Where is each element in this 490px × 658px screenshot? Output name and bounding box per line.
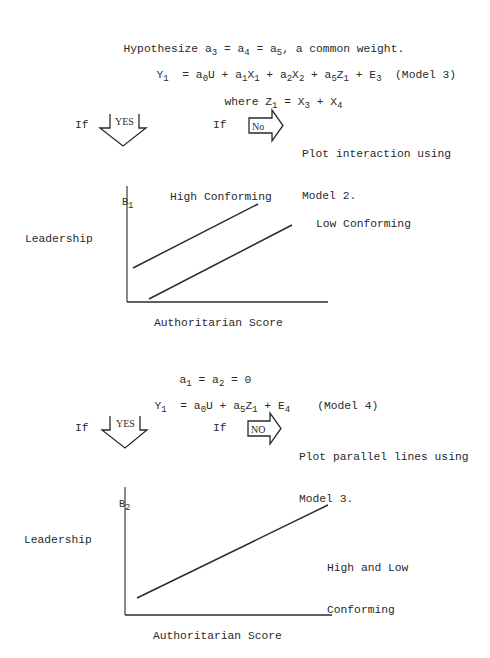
chart-1-x-label: Authoritarian Score (154, 316, 283, 330)
chart-1-low-conforming-label: Low Conforming (316, 217, 411, 231)
chart-1-high-conforming-label: High Conforming (170, 190, 272, 204)
chart-2-y-label: Leadership (24, 533, 92, 547)
chart-1-high-conforming-line (133, 204, 258, 268)
chart-2-line-label: High and Low Conforming (327, 533, 408, 631)
chart-1-y-label: Leadership (25, 232, 93, 246)
yes-box-label-2: YES (116, 418, 135, 429)
chart-2-combined-line (137, 505, 328, 598)
no-box-label-2: NO (251, 424, 265, 435)
chart-1-low-conforming-line (149, 225, 292, 299)
yes-box-label: YES (115, 116, 134, 127)
no-box-label: No (252, 121, 264, 132)
chart-2-x-label: Authoritarian Score (153, 629, 282, 643)
chart-2 (125, 487, 332, 615)
chart-2-y-symbol: B2 (107, 484, 130, 515)
chart-1-y-symbol: B1 (110, 182, 133, 213)
